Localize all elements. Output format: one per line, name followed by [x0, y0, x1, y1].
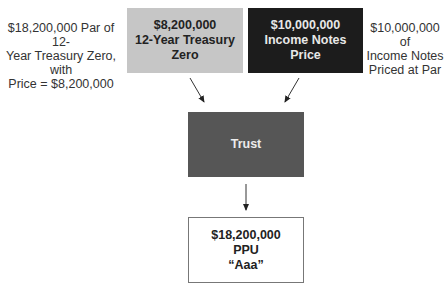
arrow-zero-to-trust [190, 78, 204, 102]
arrow-notes-to-trust [285, 78, 299, 102]
connector-arrows [0, 0, 446, 294]
